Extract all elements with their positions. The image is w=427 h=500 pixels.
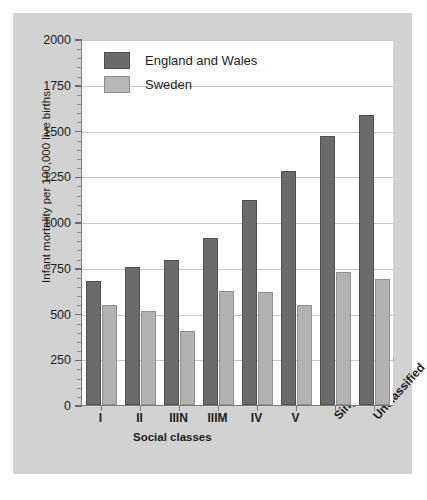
bar	[320, 136, 336, 405]
gridline	[82, 177, 393, 178]
bar	[359, 115, 375, 405]
x-tick-label: IIIN	[159, 411, 198, 425]
y-tick-label: 750	[27, 263, 71, 276]
x-tick-label: IIIM	[198, 411, 237, 425]
y-tick-label: 500	[27, 309, 71, 322]
legend-label-england-and-wales: England and Wales	[145, 53, 257, 68]
bar	[281, 171, 297, 405]
bar	[242, 200, 258, 405]
legend: England and Wales Sweden	[104, 48, 257, 96]
bar	[102, 305, 118, 405]
y-tick-label: 1750	[27, 80, 71, 93]
bar	[86, 281, 102, 405]
y-tick-label: 0	[27, 400, 71, 413]
bar	[297, 305, 313, 405]
y-tick-label: 1000	[27, 217, 71, 230]
y-tick-label: 2000	[27, 34, 71, 47]
legend-item-england-and-wales: England and Wales	[104, 48, 257, 72]
x-axis-label: Social classes	[133, 431, 212, 443]
legend-label-sweden: Sweden	[145, 77, 192, 92]
gridline	[82, 223, 393, 224]
bar	[219, 291, 235, 405]
gridline	[82, 40, 393, 41]
bar	[336, 272, 352, 405]
y-tick-label: 1250	[27, 171, 71, 184]
bar	[258, 292, 274, 405]
bar	[141, 311, 157, 405]
legend-swatch-icon-england-and-wales	[104, 52, 130, 69]
plot-area: England and Wales Sweden	[81, 40, 393, 406]
bar	[125, 267, 141, 405]
x-tick-label: V	[276, 411, 315, 425]
figure-panel: Infant mortality per 100,000 live births…	[13, 13, 412, 474]
legend-swatch-icon-sweden	[104, 76, 130, 93]
x-tick-label: IV	[237, 411, 276, 425]
bar	[203, 238, 219, 405]
legend-item-sweden: Sweden	[104, 72, 257, 96]
x-tick-label: II	[120, 411, 159, 425]
bar	[375, 279, 391, 405]
y-tick-label: 250	[27, 354, 71, 367]
gridline	[82, 132, 393, 133]
x-tick-label: I	[81, 411, 120, 425]
bar	[180, 331, 196, 405]
bar	[164, 260, 180, 405]
y-tick-label: 1500	[27, 126, 71, 139]
